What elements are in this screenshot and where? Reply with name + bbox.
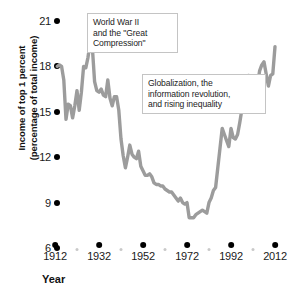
income-inequality-chart: 2118151296 Income of top 1 percent (perc… <box>0 0 306 295</box>
x-minor-tick-2002 <box>252 248 255 251</box>
x-tick-dot <box>184 242 190 248</box>
x-minor-tick-1942 <box>120 248 123 251</box>
x-minor-tick-1962 <box>164 248 167 251</box>
x-tick-dot <box>96 242 102 248</box>
x-tick-dot <box>52 242 58 248</box>
x-axis-title: Year <box>42 273 65 285</box>
x-tick-dot <box>140 242 146 248</box>
x-tick-dot <box>272 242 278 248</box>
x-tick-label: 1912 <box>43 250 67 262</box>
x-tick-label: 1992 <box>219 250 243 262</box>
x-tick-label: 1972 <box>175 250 199 262</box>
x-tick-label: 2012 <box>263 250 287 262</box>
x-minor-tick-1922 <box>76 248 79 251</box>
annotation-world-war-two: World War IIand the "GreatCompression" <box>87 13 178 53</box>
annotation-line: and the "Great <box>93 28 173 39</box>
x-tick-1992: 1992 <box>219 242 243 262</box>
annotation-line: World War II <box>93 17 173 28</box>
annotation-line: information revolution, <box>148 89 261 100</box>
x-tick-1912: 1912 <box>43 242 67 262</box>
annotation-globalization: Globalization, theinformation revolution… <box>142 74 266 114</box>
x-tick-label: 1932 <box>87 250 111 262</box>
x-tick-2012: 2012 <box>263 242 287 262</box>
x-tick-1972: 1972 <box>175 242 199 262</box>
annotation-line: and rising inequality <box>148 99 261 110</box>
x-tick-dot <box>228 242 234 248</box>
x-tick-1952: 1952 <box>131 242 155 262</box>
series-line-top-one-percent <box>57 42 275 218</box>
annotation-line: Globalization, the <box>148 78 261 89</box>
x-tick-label: 1952 <box>131 250 155 262</box>
x-tick-1932: 1932 <box>87 242 111 262</box>
x-minor-tick-1982 <box>208 248 211 251</box>
annotation-line: Compression" <box>93 38 173 49</box>
